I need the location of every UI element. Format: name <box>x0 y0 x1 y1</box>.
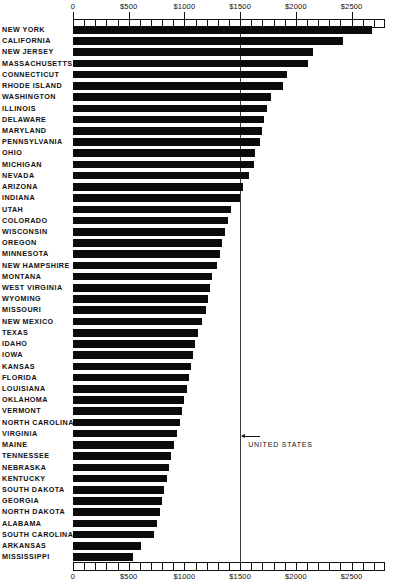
bar-label-kentucky: KENTUCKY <box>2 474 46 483</box>
bar-label-pennsylvania: PENNSYLVANIA <box>2 137 63 146</box>
bar-tennessee <box>73 452 171 460</box>
axis-minor-tick-top-2300 <box>329 19 330 28</box>
bar-chart: NEW YORKCALIFORNIANEW JERSEYMASSACHUSETT… <box>0 0 405 584</box>
bar-row: OREGON <box>0 238 405 249</box>
axis-minor-tick-top-1100 <box>196 19 197 28</box>
bar-row: WYOMING <box>0 294 405 305</box>
bar-label-south-dakota: SOUTH DAKOTA <box>2 485 65 494</box>
axis-minor-tick-bot-2400 <box>340 562 341 571</box>
bar-row: MISSISSIPPI <box>0 552 405 563</box>
bar-label-maryland: MARYLAND <box>2 126 46 135</box>
bar-label-delaware: DELAWARE <box>2 115 46 124</box>
bar-label-vermont: VERMONT <box>2 406 41 415</box>
bar-row: NORTH DAKOTA <box>0 507 405 518</box>
bar-row: NEBRASKA <box>0 463 405 474</box>
bar-louisiana <box>73 385 187 393</box>
bar-label-iowa: IOWA <box>2 350 23 359</box>
axis-minor-tick-top-600 <box>140 19 141 28</box>
axis-minor-tick-top-2000 <box>296 19 297 28</box>
bar-row: PENNSYLVANIA <box>0 137 405 148</box>
bar-label-new-mexico: NEW MEXICO <box>2 317 54 326</box>
axis-minor-tick-top-2400 <box>340 19 341 28</box>
axis-minor-tick-bot-800 <box>162 562 163 571</box>
bar-label-florida: FLORIDA <box>2 373 37 382</box>
bar-michigan <box>73 161 254 169</box>
bar-label-washington: WASHINGTON <box>2 92 56 101</box>
united-states-arrow <box>242 436 260 437</box>
bar-new-jersey <box>73 48 313 56</box>
bar-row: TENNESSEE <box>0 451 405 462</box>
bar-row: MARYLAND <box>0 126 405 137</box>
axis-minor-tick-bot-1900 <box>285 562 286 571</box>
axis-minor-tick-top-2100 <box>307 19 308 28</box>
bar-label-nevada: NEVADA <box>2 171 35 180</box>
bar-label-michigan: MICHIGAN <box>2 160 42 169</box>
bar-label-colorado: COLORADO <box>2 216 48 225</box>
bar-alabama <box>73 520 157 528</box>
bar-row: MASSACHUSETTS <box>0 59 405 70</box>
bar-label-wisconsin: WISCONSIN <box>2 227 48 236</box>
bar-row: MINNESOTA <box>0 249 405 260</box>
bar-row: WASHINGTON <box>0 92 405 103</box>
axis-minor-tick-top-500 <box>129 19 130 28</box>
bar-mississippi <box>73 553 133 561</box>
bar-row: MAINE <box>0 440 405 451</box>
bar-row: SOUTH CAROLINA <box>0 530 405 541</box>
axis-minor-tick-top-1300 <box>218 19 219 28</box>
bar-row: LOUISIANA <box>0 384 405 395</box>
bar-row: ALABAMA <box>0 519 405 530</box>
bar-label-west-virginia: WEST VIRGINIA <box>2 283 63 292</box>
axis-minor-tick-top-200 <box>95 19 96 28</box>
bar-illinois <box>73 105 267 113</box>
bar-row: WEST VIRGINIA <box>0 283 405 294</box>
bar-label-massachusetts: MASSACHUSETTS <box>2 59 73 68</box>
bar-arkansas <box>73 542 141 550</box>
bar-label-minnesota: MINNESOTA <box>2 249 49 258</box>
axis-tick-label-bot-500: $500 <box>120 572 138 581</box>
bar-label-virginia: VIRGINIA <box>2 429 38 438</box>
bar-label-oklahoma: OKLAHOMA <box>2 395 48 404</box>
bar-row: KANSAS <box>0 362 405 373</box>
bar-label-indiana: INDIANA <box>2 193 35 202</box>
bar-missouri <box>73 306 206 314</box>
bar-row: OKLAHOMA <box>0 395 405 406</box>
axis-minor-tick-top-400 <box>118 19 119 28</box>
axis-minor-tick-bot-600 <box>140 562 141 571</box>
bar-row: NEW MEXICO <box>0 317 405 328</box>
bar-washington <box>73 93 271 101</box>
axis-minor-tick-top-1400 <box>229 19 230 28</box>
bar-row: NEW HAMPSHIRE <box>0 261 405 272</box>
bar-california <box>73 37 343 45</box>
axis-minor-tick-bot-300 <box>106 562 107 571</box>
bar-minnesota <box>73 250 220 258</box>
bar-label-texas: TEXAS <box>2 328 28 337</box>
bar-florida <box>73 374 189 382</box>
bar-label-north-dakota: NORTH DAKOTA <box>2 507 65 516</box>
bar-row: WISCONSIN <box>0 227 405 238</box>
axis-tick-label-top-500: $500 <box>120 2 138 11</box>
axis-minor-tick-bot-2300 <box>329 562 330 571</box>
bar-label-louisiana: LOUISIANA <box>2 384 46 393</box>
bar-row: RHODE ISLAND <box>0 81 405 92</box>
bar-north-dakota <box>73 508 160 516</box>
axis-minor-tick-bot-1200 <box>207 562 208 571</box>
axis-minor-tick-bot-500 <box>129 562 130 571</box>
axis-minor-tick-top-2700 <box>374 19 375 28</box>
axis-minor-tick-bot-2200 <box>318 562 319 571</box>
bar-row: NEVADA <box>0 171 405 182</box>
bar-row: FLORIDA <box>0 373 405 384</box>
axis-minor-tick-top-1800 <box>274 19 275 28</box>
bar-row: COLORADO <box>0 216 405 227</box>
bar-massachusetts <box>73 60 308 68</box>
bar-label-maine: MAINE <box>2 440 27 449</box>
bar-label-rhode-island: RHODE ISLAND <box>2 81 62 90</box>
bar-row: OHIO <box>0 148 405 159</box>
bar-virginia <box>73 430 177 438</box>
axis-minor-tick-bot-1400 <box>229 562 230 571</box>
bar-row: ILLINOIS <box>0 104 405 115</box>
bar-georgia <box>73 497 162 505</box>
bar-row: MICHIGAN <box>0 160 405 171</box>
bar-label-mississippi: MISSISSIPPI <box>2 552 50 561</box>
axis-tick-label-bot-0: 0 <box>71 572 75 581</box>
bar-label-tennessee: TENNESSEE <box>2 451 50 460</box>
